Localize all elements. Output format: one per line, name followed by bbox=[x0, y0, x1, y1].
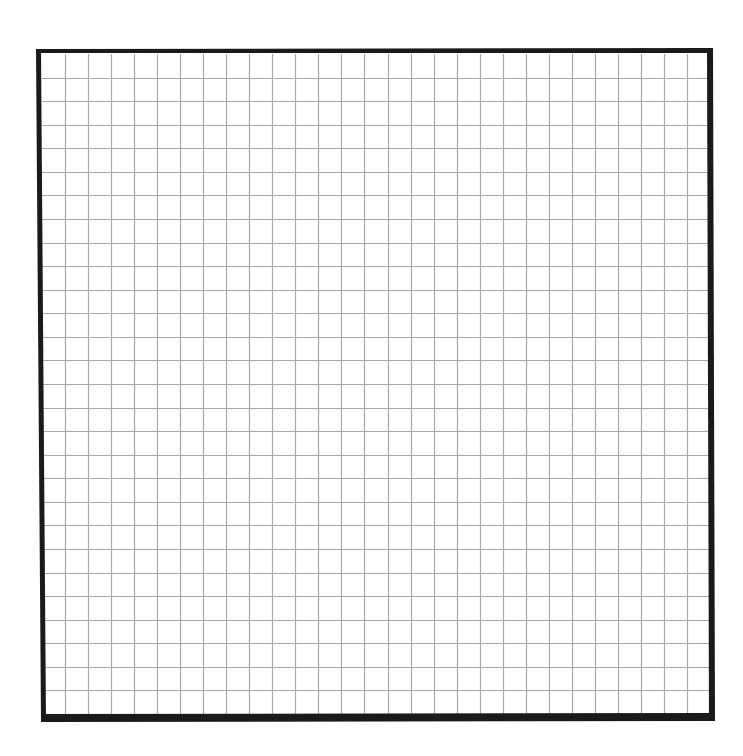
graph-paper-grid bbox=[0, 0, 743, 756]
border-bottom bbox=[41, 713, 715, 722]
